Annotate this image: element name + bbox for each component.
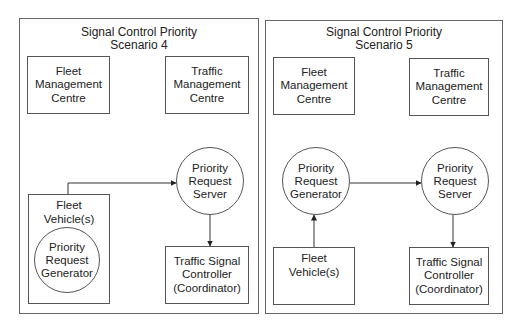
s5-fleet-vehicle-box: Fleet Vehicle(s): [273, 247, 355, 305]
s4-fleet-management-centre: Fleet Management Centre: [27, 56, 110, 114]
scenario-4-title: Signal Control Priority Scenario 4: [20, 26, 258, 52]
s5-traffic-signal-controller: Traffic Signal Controller (Coordinator): [409, 247, 489, 305]
s4-priority-request-generator: Priority Request Generator: [34, 227, 100, 293]
s5-fleet-vehicle-label: Fleet Vehicle(s): [289, 252, 340, 279]
s4-traffic-management-centre: Traffic Management Centre: [165, 56, 249, 114]
s4-fleet-vehicle-label: Fleet Vehicle(s): [44, 199, 95, 226]
scenario-5-title: Signal Control Priority Scenario 5: [266, 26, 502, 52]
s5-priority-request-generator: Priority Request Generator: [282, 147, 350, 215]
s4-priority-request-server: Priority Request Server: [176, 147, 244, 215]
s4-traffic-signal-controller: Traffic Signal Controller (Coordinator): [165, 246, 249, 304]
s5-traffic-management-centre: Traffic Management Centre: [409, 58, 489, 116]
s5-fleet-management-centre: Fleet Management Centre: [273, 57, 355, 115]
s5-priority-request-server: Priority Request Server: [421, 147, 489, 215]
